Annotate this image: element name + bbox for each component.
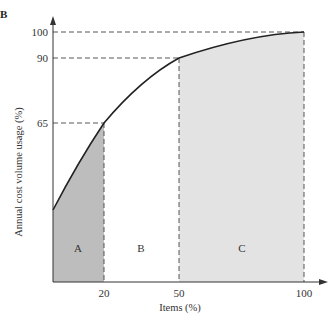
y-axis-arrow-icon (50, 16, 56, 25)
region-b-label: B (137, 242, 144, 254)
y-tick-100: 100 (32, 26, 49, 38)
y-axis-label: Annual cost volume usage (%) (13, 107, 25, 237)
x-axis-label: Items (%) (159, 302, 201, 314)
region-c-label: C (238, 242, 245, 254)
x-tick-20: 20 (99, 287, 111, 299)
x-tick-100: 100 (296, 287, 313, 299)
y-tick-65: 65 (37, 117, 49, 129)
x-tick-50: 50 (174, 287, 186, 299)
region-a-fill (53, 123, 104, 282)
x-axis-arrow-icon (319, 279, 328, 285)
abc-analysis-chart: 100 90 65 20 50 100 A B C Items (%) Annu… (0, 0, 336, 323)
region-a-label: A (74, 242, 82, 254)
y-tick-90: 90 (37, 52, 49, 64)
